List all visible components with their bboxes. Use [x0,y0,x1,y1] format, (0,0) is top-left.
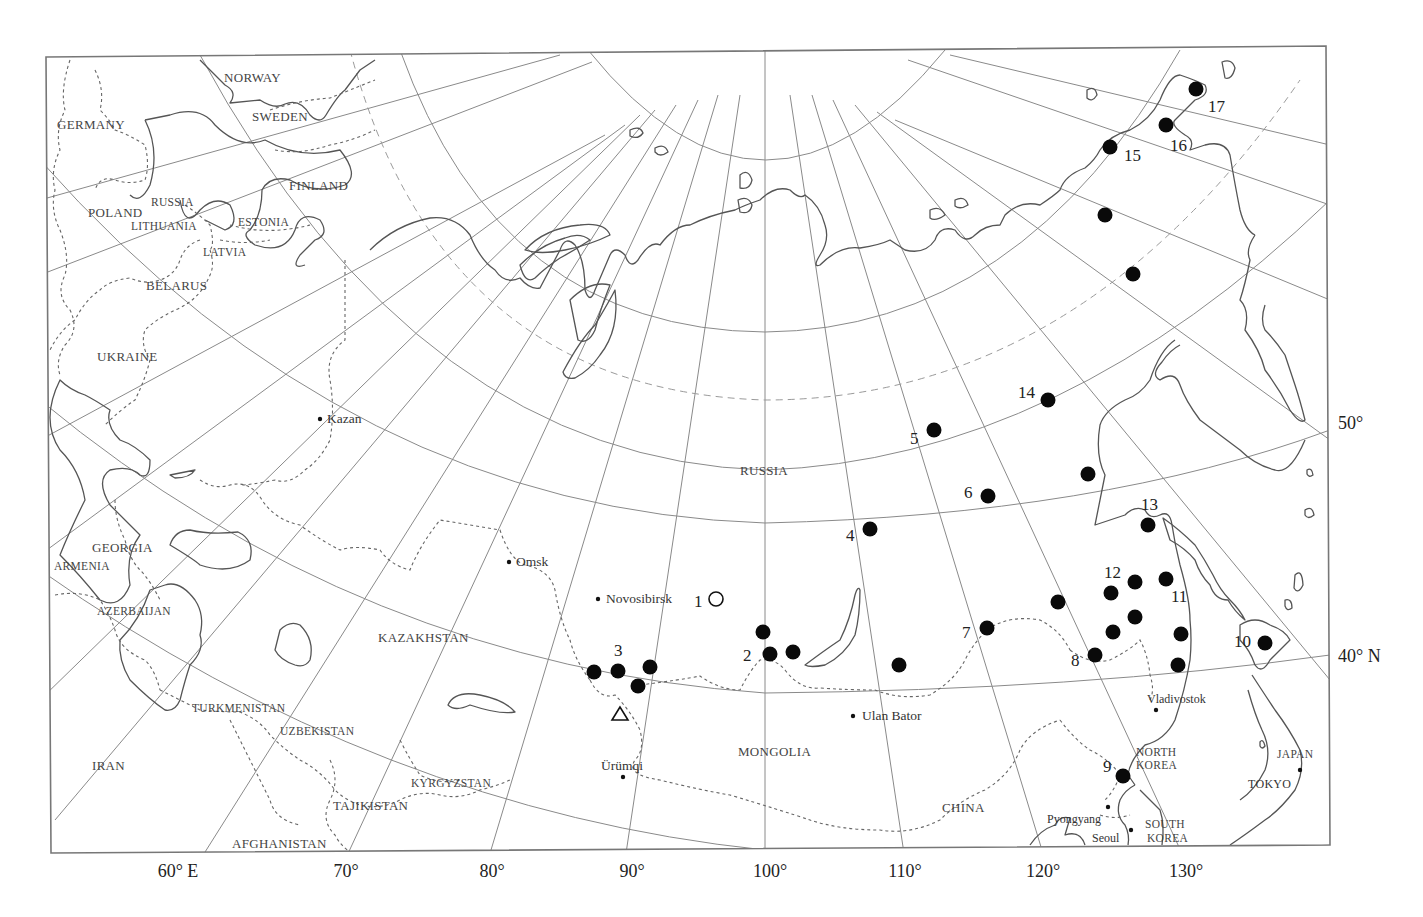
filled-circle-icon [1051,595,1066,610]
city-marker: Novosibirsk [596,591,672,606]
country-label: GEORGIA [92,540,153,555]
country-label: IRAN [92,758,125,773]
sample-site: 15 [1103,140,1142,166]
site-number: 5 [910,429,919,448]
country-label: SWEDEN [252,109,308,124]
sample-site: 13 [1141,495,1159,533]
site-number: 6 [964,483,973,502]
city-label: Omsk [516,554,549,569]
site-number: 1 [694,592,703,611]
sample-site [1051,595,1066,610]
country-label: UKRAINE [97,349,158,364]
meridians [40,0,1330,860]
longitude-label: 80° [479,861,504,881]
longitude-label: 100° [753,861,787,881]
country-label: AFGHANISTAN [232,836,327,851]
sample-site [1081,467,1096,482]
site-number: 15 [1124,146,1141,165]
longitude-label: 120° [1026,861,1060,881]
longitude-label: 70° [333,861,358,881]
city-label: Ulan Bator [862,708,922,723]
city-dot-icon [1154,708,1158,712]
country-label: KAZAKHSTAN [378,630,469,645]
triangle-marker [612,707,628,720]
country-label: FINLAND [289,178,348,193]
sample-site [1128,610,1143,625]
sample-site [1106,625,1121,640]
filled-circle-icon [1128,610,1143,625]
site-number: 9 [1103,757,1112,776]
city-dot-icon [1298,768,1302,772]
city-marker: Ürümqi [601,758,643,779]
country-label: LATVIA [203,246,247,258]
sample-site: 10 [1234,632,1273,651]
sample-site [643,660,658,675]
filled-circle-icon [1126,267,1141,282]
longitude-label: 60° E [158,861,199,881]
sample-site [1174,627,1189,642]
parallels [40,50,1330,854]
city-marker: Omsk [507,554,549,569]
city-label: Kazan [327,411,362,426]
coastlines [50,60,1314,845]
country-label: NORTH [1136,746,1176,758]
site-number: 7 [962,623,971,642]
sample-site: 1 [694,592,723,611]
city-dot-icon [1129,828,1133,832]
sample-site: 4 [846,522,878,546]
sample-site: 2 [743,646,778,665]
filled-circle-icon [1159,118,1174,133]
filled-circle-icon [1106,625,1121,640]
city-label: Seoul [1092,831,1120,845]
site-number: 16 [1170,136,1187,155]
country-label: LITHUANIA [131,220,197,232]
city-label: Ürümqi [601,758,643,773]
sample-site [1104,586,1119,601]
sample-site [892,658,907,673]
sample-site [786,645,801,660]
filled-circle-icon [1141,518,1156,533]
map-frame [46,46,1330,853]
site-number: 11 [1171,587,1187,606]
country-label: ARMENIA [54,560,110,572]
sample-site [631,679,646,694]
filled-circle-icon [1088,648,1103,663]
city-dot-icon [507,560,511,564]
filled-circle-icon [1081,467,1096,482]
filled-circle-icon [643,660,658,675]
city-dot-icon [596,597,600,601]
filled-circle-icon [1116,769,1131,784]
country-label: POLAND [88,205,143,220]
sample-site: 17 [1189,82,1226,117]
city-label: Pyongyang [1047,812,1101,826]
map-canvas: NORWAYGERMANYSWEDENFINLANDPOLANDRUSSIALI… [0,0,1423,917]
sample-site: 3 [611,641,626,679]
filled-circle-icon [1159,572,1174,587]
country-label: KOREA [1136,759,1178,771]
longitude-label: 130° [1169,861,1203,881]
city-dot-icon [318,417,322,421]
city-marker: Pyongyang [1047,805,1110,826]
sample-site [1098,208,1113,223]
open-circle-icon [709,592,723,606]
country-label: UZBEKISTAN [280,725,355,737]
filled-circle-icon [1171,658,1186,673]
sample-site [756,625,771,640]
filled-circle-icon [927,423,942,438]
sample-site [1126,267,1141,282]
site-number: 13 [1141,495,1158,514]
country-label: GERMANY [57,117,125,132]
city-marker: TOKYO [1248,768,1302,791]
city-dot-icon [1106,805,1110,809]
filled-circle-icon [892,658,907,673]
city-marker: Ulan Bator [851,708,922,723]
country-label: KYRGYZSTAN [411,777,491,789]
sample-site: 14 [1018,383,1056,408]
filled-circle-icon [1103,140,1118,155]
country-label: TAJIKISTAN [333,798,409,813]
city-marker: Vladivostok [1147,692,1206,712]
filled-circle-icon [1189,82,1204,97]
city-label: Novosibirsk [606,591,672,606]
country-label: ESTONIA [238,216,289,228]
sample-site: 5 [910,423,942,449]
